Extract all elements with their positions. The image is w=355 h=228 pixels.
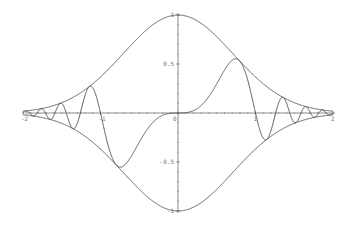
- x-tick-label: 0: [173, 115, 177, 122]
- x-tick-label: -2: [21, 115, 29, 122]
- axes: -2-1012 10.5-0.5-1: [21, 11, 335, 214]
- y-tick-label: 0.5: [163, 60, 174, 67]
- y-tick-label: -0.5: [160, 158, 175, 165]
- chart-plot: -2-1012 10.5-0.5-1: [0, 0, 355, 228]
- x-tick-label: 2: [331, 115, 335, 122]
- y-tick-label: 1: [170, 11, 174, 18]
